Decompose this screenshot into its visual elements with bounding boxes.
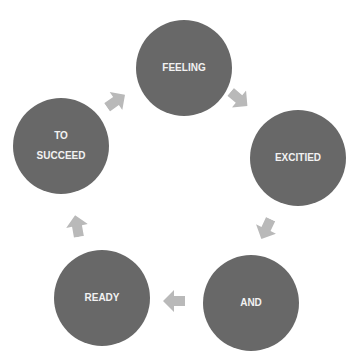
node-label: SUCCEED <box>37 146 86 166</box>
node-label: AND <box>240 293 262 313</box>
node-to-succeed: TO SUCCEED <box>13 98 109 194</box>
node-label: FEELING <box>162 58 205 78</box>
node-and: AND <box>203 255 299 351</box>
node-ready: READY <box>54 250 150 346</box>
arrow-ready-to-succeed-icon <box>64 213 89 238</box>
node-excitied: EXCITIED <box>250 110 346 206</box>
node-label: EXCITIED <box>275 148 321 168</box>
arrow-feeling-to-excitied-icon <box>224 84 255 115</box>
node-label: READY <box>84 288 119 308</box>
node-label: TO <box>54 126 68 146</box>
arrow-excitied-to-and-icon <box>251 214 280 243</box>
node-feeling: FEELING <box>136 20 232 116</box>
arrow-succeed-to-feeling-icon <box>101 86 132 117</box>
arrow-and-to-ready-icon <box>163 290 185 312</box>
